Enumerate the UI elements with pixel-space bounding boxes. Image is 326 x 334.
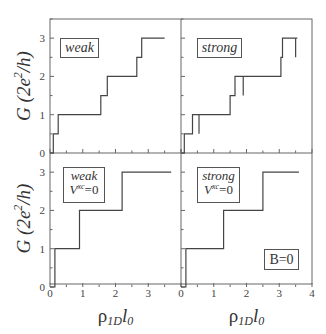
y-axis-label: G (2e2/h): [11, 184, 35, 254]
label-weak: weak: [64, 169, 104, 183]
y-tick-label: 2: [40, 70, 46, 82]
x-tick-label: 4: [309, 287, 315, 299]
y-tick-label: 2: [40, 204, 46, 216]
x-tick-label: 0: [178, 287, 184, 299]
x-axis-label: ρ1Dl0: [98, 305, 133, 328]
y-axis-label: G (2e2/h): [11, 51, 35, 121]
label-strong: strong: [198, 169, 239, 183]
label-top-right-strong: strong: [197, 38, 242, 58]
y-tick-label: 3: [40, 166, 46, 178]
y-tick-label: 3: [40, 32, 46, 44]
label-bottom-left-weak-vxc: weak Vxc=0: [63, 167, 105, 203]
x-tick-label: 3: [277, 287, 283, 299]
y-tick-label: 0: [40, 281, 46, 293]
label-vxc: Vxc=0: [198, 183, 239, 197]
x-tick-label: 1: [80, 287, 86, 299]
x-tick-label: 2: [244, 287, 250, 299]
chart-canvas: 01230123012301234G (2e2/h)G (2e2/h)ρ1Dl0…: [0, 0, 326, 334]
x-tick-label: 2: [113, 287, 119, 299]
x-tick-label: 0: [47, 287, 53, 299]
label-b-zero: B=0: [264, 249, 299, 270]
figure: 01230123012301234G (2e2/h)G (2e2/h)ρ1Dl0…: [0, 0, 326, 334]
x-tick-label: 1: [211, 287, 217, 299]
y-tick-label: 1: [40, 109, 46, 121]
label-top-left-weak: weak: [60, 38, 99, 58]
label-bottom-right-strong-vxc: strong Vxc=0: [197, 167, 240, 203]
label-vxc: Vxc=0: [64, 183, 104, 197]
x-tick-label: 3: [146, 287, 152, 299]
y-tick-label: 1: [40, 243, 46, 255]
y-tick-label: 0: [40, 147, 46, 159]
x-axis-label: ρ1Dl0: [229, 305, 264, 328]
